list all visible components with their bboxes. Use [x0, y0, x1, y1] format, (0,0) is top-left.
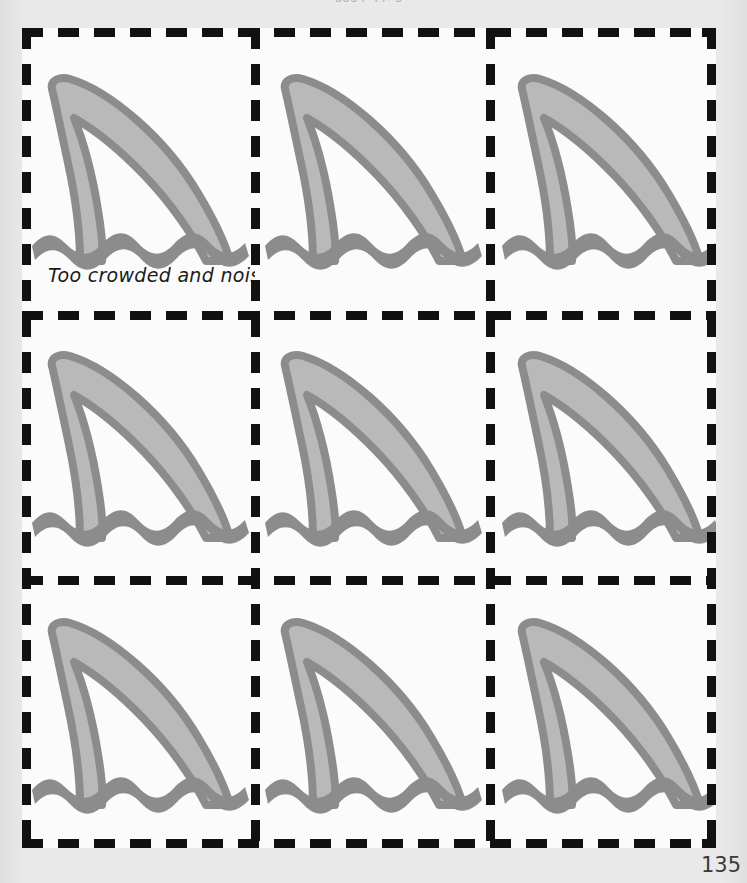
shark-fin-icon — [30, 60, 252, 272]
grid-cell[interactable]: Too crowded and noisy. — [22, 28, 255, 315]
grid-cell[interactable] — [255, 580, 490, 848]
shark-fin-icon — [500, 60, 716, 272]
grid-cell[interactable] — [22, 315, 255, 580]
header-text: ggg p ( ), g , — [0, 0, 747, 2]
shark-fin-icon — [30, 337, 252, 549]
handwritten-note: Too crowded and noisy. — [48, 264, 255, 286]
shark-fin-icon — [263, 60, 485, 272]
cut-off-header: ggg p ( ), g , — [0, 0, 747, 11]
worksheet-grid-area: Too crowded and noisy. — [22, 28, 716, 848]
shark-fin-icon — [500, 604, 716, 816]
page-number: 135 — [701, 853, 741, 877]
grid-cell[interactable] — [255, 315, 490, 580]
grid-cell[interactable] — [490, 28, 716, 315]
worksheet-page: ggg p ( ), g , Too crowded and noisy. — [0, 0, 747, 883]
grid-cell[interactable] — [490, 580, 716, 848]
shark-fin-icon — [263, 337, 485, 549]
fin-grid: Too crowded and noisy. — [22, 28, 716, 848]
grid-cell[interactable] — [255, 28, 490, 315]
grid-cell[interactable] — [490, 315, 716, 580]
shark-fin-icon — [263, 604, 485, 816]
shark-fin-icon — [30, 604, 252, 816]
grid-cell[interactable] — [22, 580, 255, 848]
shark-fin-icon — [500, 337, 716, 549]
